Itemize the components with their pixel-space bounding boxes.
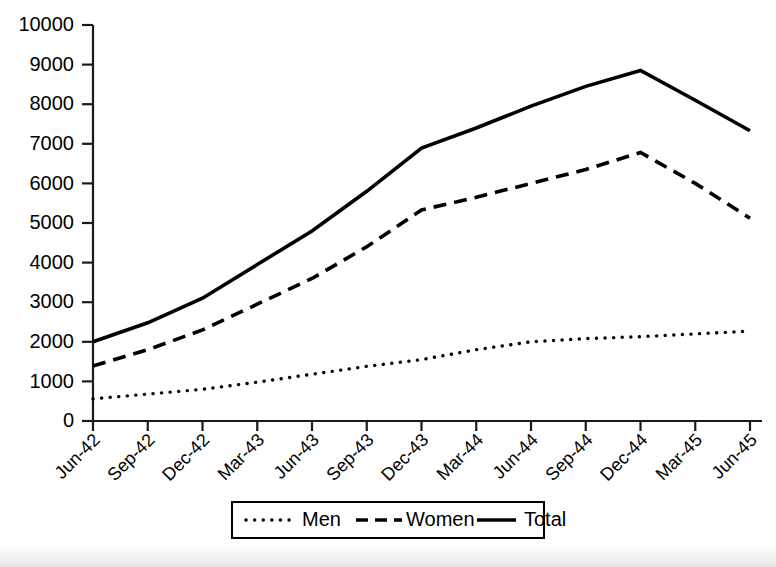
legend-label-women: Women <box>406 508 475 530</box>
y-tick-label: 1000 <box>30 370 75 392</box>
x-tick-label: Dec-42 <box>158 430 213 485</box>
axes-group <box>93 25 762 421</box>
x-tick-label: Jun-45 <box>708 430 761 483</box>
x-tick-label: Sep-42 <box>103 430 158 485</box>
series-line-women <box>93 153 750 366</box>
x-axis-tick-labels: Jun-42Sep-42Dec-42Mar-43Jun-43Sep-43Dec-… <box>51 430 761 485</box>
x-tick-label: Mar-45 <box>652 430 706 484</box>
x-tick-label: Jun-43 <box>270 430 323 483</box>
legend-label-total: Total <box>524 508 566 530</box>
series-group <box>93 71 750 399</box>
series-line-total <box>93 71 750 342</box>
y-tick-label: 5000 <box>30 211 75 233</box>
x-tick-label: Dec-43 <box>377 430 432 485</box>
y-tick-label: 4000 <box>30 251 75 273</box>
chart-legend: Men Women Total <box>232 502 566 538</box>
x-axis-ticks <box>93 421 750 431</box>
y-axis-tick-labels: 0100020003000400050006000700080009000100… <box>18 13 74 431</box>
x-tick-label: Sep-43 <box>322 430 377 485</box>
x-tick-label: Mar-43 <box>214 430 268 484</box>
y-tick-label: 3000 <box>30 290 75 312</box>
x-tick-label: Dec-44 <box>596 430 651 485</box>
y-tick-label: 0 <box>63 409 74 431</box>
y-tick-label: 7000 <box>30 132 75 154</box>
x-tick-label: Mar-44 <box>433 430 487 484</box>
series-line-men <box>93 331 750 399</box>
line-chart-svg: 0100020003000400050006000700080009000100… <box>0 0 776 567</box>
x-tick-label: Jun-42 <box>51 430 104 483</box>
y-tick-label: 10000 <box>18 13 74 35</box>
x-tick-label: Sep-44 <box>541 430 596 485</box>
chart-container: 0100020003000400050006000700080009000100… <box>0 0 776 567</box>
y-tick-label: 9000 <box>30 53 75 75</box>
x-tick-label: Jun-44 <box>489 430 542 483</box>
y-tick-label: 8000 <box>30 92 75 114</box>
y-tick-label: 6000 <box>30 172 75 194</box>
legend-label-men: Men <box>302 508 341 530</box>
y-tick-label: 2000 <box>30 330 75 352</box>
y-axis-ticks <box>82 25 93 421</box>
